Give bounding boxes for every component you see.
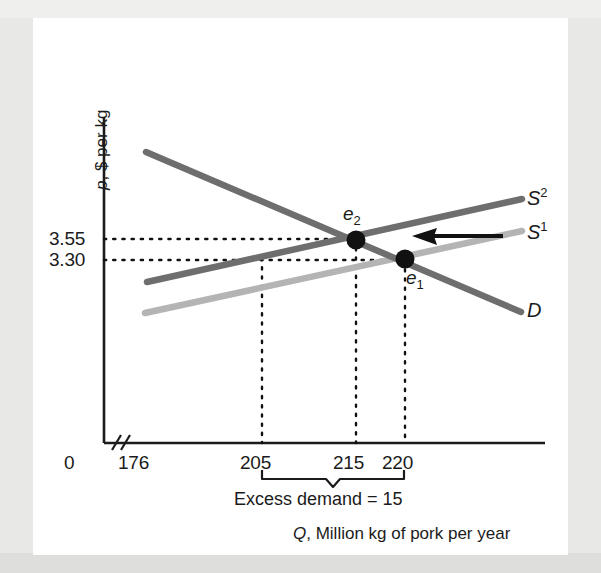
y-tick-label-330: 3.30	[49, 249, 85, 271]
curve-label-s2-base: S	[527, 187, 540, 209]
equilibrium-label-e1-sub: 1	[417, 277, 424, 292]
x-axis-title-rest: , Million kg of pork per year	[306, 524, 510, 543]
x-tick-label-215: 215	[333, 452, 364, 474]
equilibrium-label-e2: e2	[343, 203, 361, 225]
curve-label-s2: S2	[527, 187, 548, 210]
equilibrium-point-e1	[396, 250, 415, 269]
x-tick-label-205: 205	[240, 452, 271, 474]
figure-page: p, $ per kg 3.55 3.30 0 176 205 215 220 …	[0, 0, 601, 573]
curve-label-s1-base: S	[527, 221, 540, 243]
x-axis-title: Q, Million kg of pork per year	[293, 524, 510, 544]
curve-label-d: D	[527, 299, 541, 322]
x-axis-title-symbol: Q	[293, 524, 306, 543]
equilibrium-label-e1: e1	[406, 267, 424, 289]
supply-shift-arrow-head	[412, 228, 437, 245]
x-tick-label-176: 176	[118, 452, 149, 474]
equilibrium-label-e1-base: e	[406, 267, 417, 288]
curve-label-s2-sup: 2	[540, 185, 547, 200]
equilibrium-label-e2-sub: 2	[354, 213, 361, 228]
y-tick-label-355: 3.55	[49, 228, 85, 250]
curve-label-s1-sup: 1	[540, 219, 547, 234]
demand-curve	[146, 152, 521, 312]
excess-demand-label: Excess demand = 15	[234, 489, 403, 510]
y-axis-title: p, $ per kg	[92, 110, 112, 190]
supply-demand-chart	[0, 0, 601, 573]
equilibrium-point-e2	[347, 231, 366, 250]
equilibrium-label-e2-base: e	[343, 203, 354, 224]
curve-label-s1: S1	[527, 221, 548, 244]
origin-label: 0	[64, 452, 74, 474]
x-tick-label-220: 220	[382, 452, 413, 474]
